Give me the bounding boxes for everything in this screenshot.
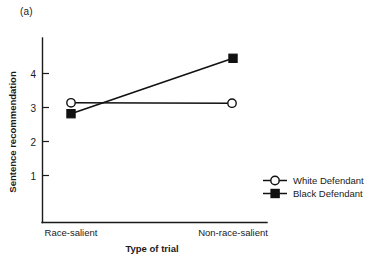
legend-item-white-defendant: White Defendant — [263, 175, 364, 186]
data-point-black-race-salient — [67, 110, 75, 118]
legend: White Defendant Black Defendant — [263, 175, 364, 199]
filled-square-icon — [271, 189, 279, 197]
series-line-black-defendant — [71, 58, 233, 113]
legend-item-black-defendant: Black Defendant — [263, 188, 363, 199]
open-circle-icon — [271, 176, 279, 184]
legend-label-black-defendant: Black Defendant — [293, 188, 363, 199]
y-tick-label-1: 1 — [30, 171, 36, 182]
data-point-white-non-race-salient — [228, 99, 236, 107]
data-point-white-race-salient — [67, 99, 75, 107]
figure-panel: (a) 4 3 2 1 Sentence recommendation Race… — [0, 0, 377, 270]
y-tick-label-2: 2 — [30, 137, 36, 148]
y-axis-title: Sentence recommendation — [7, 71, 18, 193]
x-tick-label-race-salient: Race-salient — [45, 227, 98, 238]
data-point-black-non-race-salient — [229, 54, 237, 62]
x-axis-title: Type of trial — [125, 243, 178, 254]
legend-label-white-defendant: White Defendant — [293, 175, 364, 186]
chart-canvas: 4 3 2 1 Sentence recommendation Race-sal… — [0, 0, 377, 270]
y-tick-label-4: 4 — [30, 69, 36, 80]
y-tick-label-3: 3 — [30, 103, 36, 114]
x-tick-label-non-race-salient: Non-race-salient — [198, 227, 268, 238]
